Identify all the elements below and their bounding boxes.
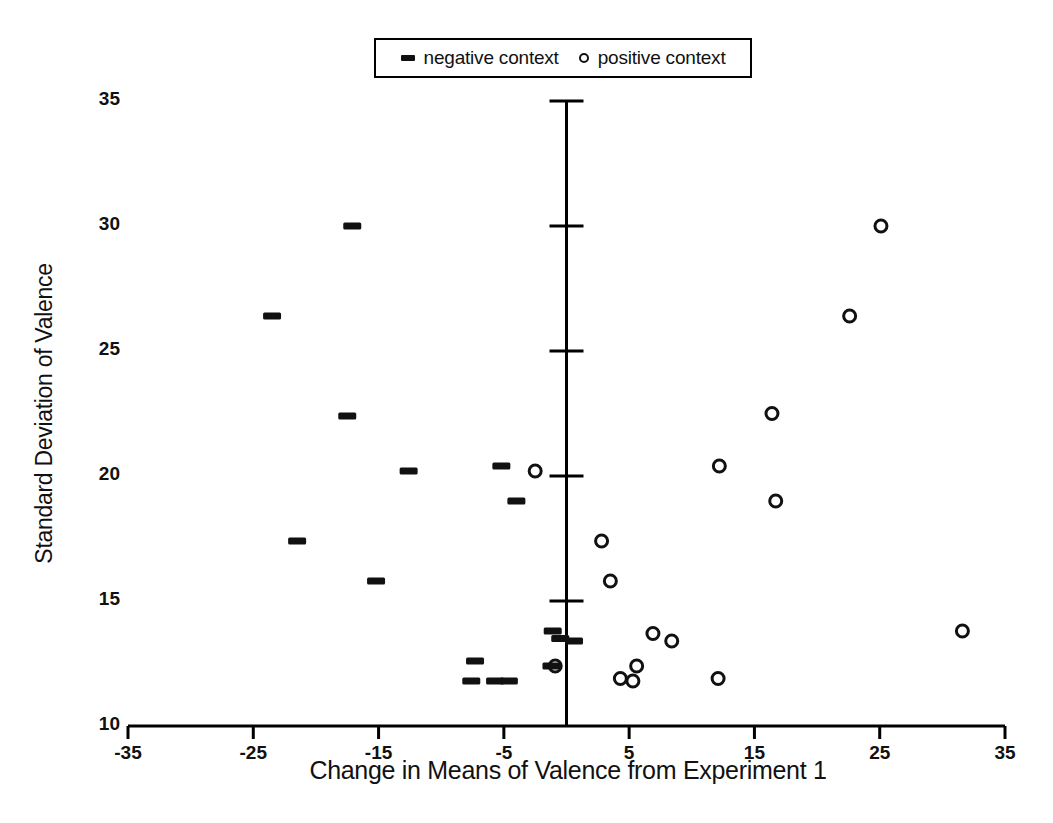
data-point-circle (766, 408, 778, 420)
y-tick-label: 35 (60, 88, 120, 110)
data-point-dash (500, 678, 518, 685)
data-point-circle (844, 310, 856, 322)
data-point-dash (492, 463, 510, 470)
series-positive-context (529, 220, 968, 687)
data-point-dash (343, 223, 361, 230)
y-tick-label: 30 (60, 213, 120, 235)
data-point-circle (647, 628, 659, 640)
data-point-circle (713, 460, 725, 472)
plot-canvas (0, 0, 1053, 823)
data-point-circle (666, 635, 678, 647)
y-tick-label: 25 (60, 338, 120, 360)
data-point-circle (529, 465, 541, 477)
data-point-circle (956, 625, 968, 637)
data-point-dash (542, 663, 560, 670)
data-point-dash (507, 498, 525, 505)
data-point-dash (462, 678, 480, 685)
data-point-dash (288, 538, 306, 545)
y-tick-label: 10 (60, 713, 120, 735)
data-point-dash (544, 628, 562, 635)
data-point-circle (614, 673, 626, 685)
data-point-dash (367, 578, 385, 585)
data-point-circle (712, 673, 724, 685)
series-negative-context (263, 223, 583, 685)
data-point-circle (770, 495, 782, 507)
scatter-plot-figure: negative context positive context 101520… (0, 0, 1053, 823)
data-point-circle (875, 220, 887, 232)
data-point-circle (631, 660, 643, 672)
data-point-dash (263, 313, 281, 320)
data-point-circle (627, 675, 639, 687)
data-point-dash (338, 413, 356, 420)
data-point-circle (604, 575, 616, 587)
data-point-dash (466, 658, 484, 665)
y-tick-label: 20 (60, 463, 120, 485)
x-axis-title: Change in Means of Valence from Experime… (128, 756, 1008, 785)
y-tick-label: 15 (60, 588, 120, 610)
y-axis-title: Standard Deviation of Valence (31, 204, 58, 624)
data-point-dash (565, 638, 583, 645)
data-point-dash (400, 468, 418, 475)
data-point-circle (596, 535, 608, 547)
